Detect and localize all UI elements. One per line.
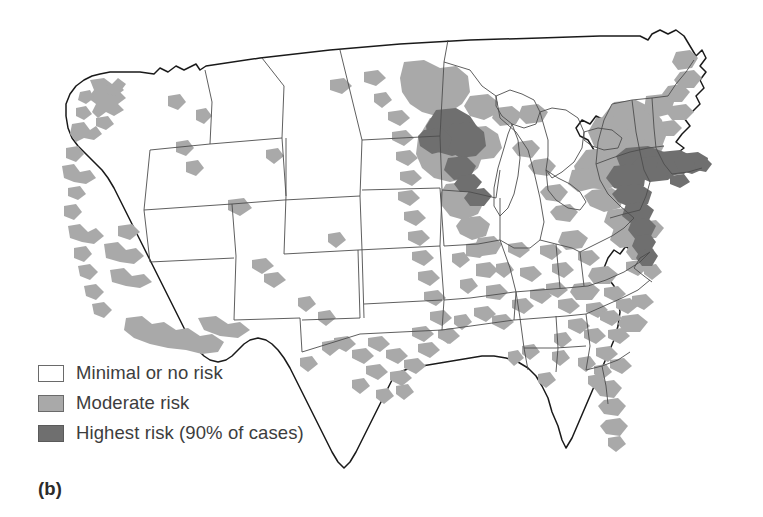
legend-label-highest: Highest risk (90% of cases) (76, 424, 304, 443)
legend-label-minimal: Minimal or no risk (76, 364, 223, 383)
legend-item-highest[interactable]: Highest risk (90% of cases) (38, 418, 368, 448)
legend-label-moderate: Moderate risk (76, 394, 189, 413)
risk-map-figure: Minimal or no risk Moderate risk Highest… (0, 0, 763, 517)
panel-label: (b) (38, 478, 62, 500)
map-legend: Minimal or no risk Moderate risk Highest… (38, 358, 368, 448)
legend-item-minimal[interactable]: Minimal or no risk (38, 358, 368, 388)
highest-risk-swatch (38, 425, 64, 442)
minimal-risk-swatch (38, 365, 64, 382)
legend-item-moderate[interactable]: Moderate risk (38, 388, 368, 418)
moderate-risk-swatch (38, 395, 64, 412)
